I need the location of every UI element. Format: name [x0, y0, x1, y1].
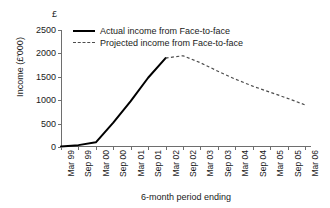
y-tick-label: 2000	[22, 48, 56, 58]
x-tick-label: Sep 04	[258, 150, 269, 192]
income-line-chart: £ Income (£'000) 05001000150020002500 Ac…	[0, 0, 330, 208]
y-tick-mark	[58, 77, 61, 78]
y-tick-mark	[58, 53, 61, 54]
y-tick-label: 500	[22, 119, 56, 129]
y-axis-tick-labels: 05001000150020002500	[22, 24, 56, 152]
x-tick-label: Mar 01	[136, 150, 147, 192]
chart-legend: Actual income from Face-to-face Projecte…	[73, 25, 283, 49]
x-tick-label: Mar 99	[66, 150, 77, 192]
series-line-projected	[166, 56, 305, 105]
legend-swatch-dashed-line-icon	[73, 38, 95, 48]
x-tick-label: Mar 03	[205, 150, 216, 192]
y-tick-label: 1500	[22, 72, 56, 82]
y-tick-label: 1000	[22, 95, 56, 105]
x-tick-label: Sep 01	[153, 150, 164, 192]
y-tick-mark	[58, 124, 61, 125]
x-tick-label: Sep 00	[118, 150, 129, 192]
x-axis-tick-labels: Mar 99Sep 99Mar 00Sep 00Mar 01Sep 01Mar …	[61, 150, 311, 192]
legend-label-actual: Actual income from Face-to-face	[100, 26, 230, 37]
legend-label-projected: Projected income from Face-to-face	[100, 38, 243, 49]
legend-swatch-solid-line-icon	[73, 26, 95, 36]
x-tick-label: Mar 06	[310, 150, 321, 192]
x-tick-label: Mar 00	[101, 150, 112, 192]
y-tick-label: 0	[22, 142, 56, 152]
y-tick-mark	[58, 100, 61, 101]
currency-symbol-label: £	[52, 9, 57, 20]
x-tick-label: Mar 02	[171, 150, 182, 192]
x-tick-label: Mar 05	[275, 150, 286, 192]
x-tick-label: Sep 05	[293, 150, 304, 192]
y-tick-label: 2500	[22, 25, 56, 35]
y-tick-mark	[58, 30, 61, 31]
plot-area: Actual income from Face-to-face Projecte…	[61, 30, 311, 147]
x-tick-label: Sep 03	[223, 150, 234, 192]
series-line-actual	[61, 58, 166, 146]
x-tick-label: Mar 04	[240, 150, 251, 192]
x-tick-label: Sep 99	[83, 150, 94, 192]
legend-item-projected: Projected income from Face-to-face	[73, 37, 283, 49]
x-tick-label: Sep 02	[188, 150, 199, 192]
legend-item-actual: Actual income from Face-to-face	[73, 25, 283, 37]
x-axis-title: 6-month period ending	[61, 192, 311, 203]
